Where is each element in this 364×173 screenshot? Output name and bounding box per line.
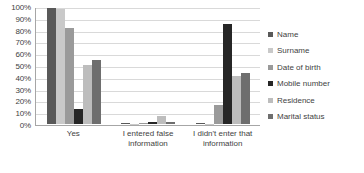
y-tick-label: 30% <box>16 87 31 95</box>
bar <box>148 122 157 124</box>
x-axis-category-labels: YesI entered false informationI didn't e… <box>36 129 260 149</box>
y-tick-label: 20% <box>16 98 31 106</box>
bar <box>65 28 74 124</box>
legend-item[interactable]: Marital status <box>268 109 364 125</box>
y-tick-label: 10% <box>16 110 31 118</box>
legend-item[interactable]: Date of birth <box>268 59 364 75</box>
bar <box>56 9 65 124</box>
bar-group <box>37 8 111 124</box>
legend-label: Surname <box>277 46 309 55</box>
legend-label: Marital status <box>277 112 325 121</box>
bar-chart: 0%10%20%30%40%50%60%70%80%90%100% YesI e… <box>0 0 364 173</box>
x-axis-category-label: I entered false information <box>111 129 186 149</box>
x-axis-category-label: I didn't enter that information <box>185 129 260 149</box>
legend: NameSurnameDate of birthMobile numberRes… <box>268 26 364 125</box>
y-axis: 0%10%20%30%40%50%60%70%80%90%100% <box>0 8 33 126</box>
y-tick-label: 0% <box>20 122 31 130</box>
bar <box>223 24 232 124</box>
bar-group <box>111 8 185 124</box>
bar <box>241 73 250 124</box>
legend-item[interactable]: Residence <box>268 92 364 108</box>
bar <box>157 116 166 124</box>
legend-swatch-icon <box>268 48 273 53</box>
y-tick-label: 100% <box>11 4 31 12</box>
bar <box>83 65 92 124</box>
legend-label: Residence <box>277 96 315 105</box>
bar <box>196 123 205 124</box>
legend-swatch-icon <box>268 65 273 70</box>
bar <box>121 123 130 124</box>
legend-swatch-icon <box>268 81 273 86</box>
y-tick-label: 90% <box>16 16 31 24</box>
legend-item[interactable]: Name <box>268 26 364 42</box>
bar-group <box>186 8 260 124</box>
legend-item[interactable]: Mobile number <box>268 76 364 92</box>
legend-label: Date of birth <box>277 63 321 72</box>
bar <box>74 109 83 124</box>
legend-swatch-icon <box>268 114 273 119</box>
bar-groups <box>37 8 260 124</box>
y-tick-label: 80% <box>16 28 31 36</box>
y-tick-label: 50% <box>16 63 31 71</box>
legend-swatch-icon <box>268 32 273 37</box>
legend-item[interactable]: Surname <box>268 43 364 59</box>
y-tick-label: 60% <box>16 51 31 59</box>
bar <box>47 8 56 124</box>
bar <box>232 76 241 124</box>
plot-area <box>35 8 260 126</box>
y-tick-label: 40% <box>16 75 31 83</box>
legend-swatch-icon <box>268 98 273 103</box>
bar <box>214 105 223 124</box>
bar <box>92 60 101 124</box>
bar <box>139 123 148 124</box>
legend-label: Name <box>277 30 298 39</box>
y-tick-label: 70% <box>16 39 31 47</box>
x-axis-category-label: Yes <box>36 129 111 149</box>
legend-label: Mobile number <box>277 79 330 88</box>
bar <box>166 122 175 124</box>
